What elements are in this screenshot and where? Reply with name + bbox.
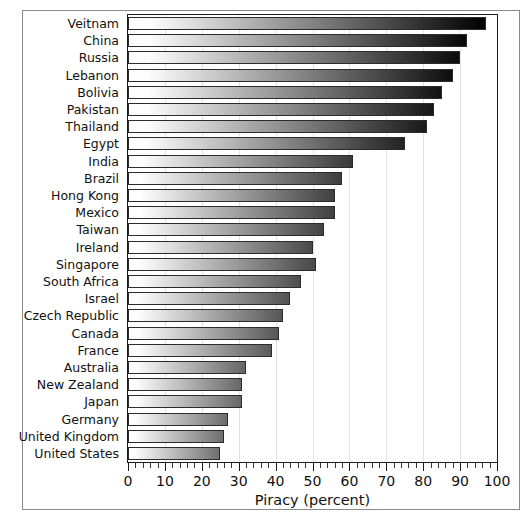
- x-tick-minor: [431, 463, 432, 468]
- category-label-taiwan: Taiwan: [76, 223, 119, 236]
- bar-row: [128, 378, 497, 391]
- x-tick-minor: [475, 463, 476, 468]
- bar-row: [128, 292, 497, 305]
- bar: [128, 155, 353, 168]
- bar-row: [128, 223, 497, 236]
- bar-row: [128, 275, 497, 288]
- x-tick-minor: [180, 463, 181, 468]
- category-label-thailand: Thailand: [65, 120, 119, 133]
- category-label-china: China: [83, 34, 119, 47]
- bar: [128, 395, 242, 408]
- x-tick-major: [460, 463, 461, 471]
- category-label-lebanon: Lebanon: [65, 69, 119, 82]
- x-tick-minor: [158, 463, 159, 468]
- x-tick-minor: [364, 463, 365, 468]
- x-tick-minor: [231, 463, 232, 468]
- x-tick-minor: [327, 463, 328, 468]
- x-tick-minor: [290, 463, 291, 468]
- x-tick-minor: [217, 463, 218, 468]
- x-tick-minor: [143, 463, 144, 468]
- category-label-mexico: Mexico: [75, 206, 119, 219]
- x-tick-minor: [209, 463, 210, 468]
- bar-row: [128, 103, 497, 116]
- category-label-united-states: United States: [34, 447, 119, 460]
- x-tick-minor: [187, 463, 188, 468]
- x-tick-label-80: 80: [414, 472, 432, 490]
- category-label-france: France: [77, 344, 119, 357]
- bar: [128, 241, 313, 254]
- x-tick-label-100: 100: [484, 472, 511, 490]
- piracy-bar-chart-figure: VeitnamChinaRussiaLebanonBoliviaPakistan…: [0, 0, 529, 526]
- x-tick-label-50: 50: [304, 472, 322, 490]
- bar: [128, 344, 272, 357]
- x-axis-tick-labels: 0102030405060708090100: [127, 472, 498, 492]
- x-tick-label-10: 10: [156, 472, 174, 490]
- bar-row: [128, 413, 497, 426]
- x-tick-minor: [135, 463, 136, 468]
- category-label-veitnam: Veitnam: [68, 17, 119, 30]
- bar-row: [128, 309, 497, 322]
- x-tick-major: [423, 463, 424, 471]
- bar: [128, 309, 283, 322]
- x-tick-minor: [335, 463, 336, 468]
- bar: [128, 258, 316, 271]
- x-tick-minor: [305, 463, 306, 468]
- bar: [128, 430, 224, 443]
- bar-row: [128, 206, 497, 219]
- bar-row: [128, 137, 497, 150]
- bar-row: [128, 155, 497, 168]
- bar: [128, 103, 434, 116]
- bar: [128, 86, 442, 99]
- bar: [128, 275, 301, 288]
- bar: [128, 120, 427, 133]
- bar: [128, 34, 467, 47]
- bar: [128, 223, 324, 236]
- bar: [128, 172, 342, 185]
- bar-row: [128, 17, 497, 30]
- category-label-pakistan: Pakistan: [67, 103, 119, 116]
- bar-row: [128, 241, 497, 254]
- x-tick-label-90: 90: [451, 472, 469, 490]
- bar-row: [128, 172, 497, 185]
- x-tick-major: [202, 463, 203, 471]
- category-label-singapore: Singapore: [56, 258, 119, 271]
- bar-row: [128, 120, 497, 133]
- bar-row: [128, 430, 497, 443]
- bar: [128, 17, 486, 30]
- bar: [128, 327, 279, 340]
- x-tick-minor: [150, 463, 151, 468]
- category-label-united-kingdom: United Kingdom: [19, 430, 119, 443]
- x-tick-minor: [438, 463, 439, 468]
- category-label-brazil: Brazil: [84, 172, 119, 185]
- bar: [128, 361, 246, 374]
- x-tick-minor: [320, 463, 321, 468]
- x-tick-major: [497, 463, 498, 471]
- x-tick-major: [313, 463, 314, 471]
- x-tick-minor: [246, 463, 247, 468]
- category-axis-labels: VeitnamChinaRussiaLebanonBoliviaPakistan…: [0, 14, 123, 463]
- bar-row: [128, 189, 497, 202]
- category-label-new-zealand: New Zealand: [37, 378, 119, 391]
- x-tick-minor: [261, 463, 262, 468]
- x-tick-minor: [482, 463, 483, 468]
- bar-row: [128, 34, 497, 47]
- x-tick-minor: [445, 463, 446, 468]
- bar: [128, 413, 228, 426]
- x-tick-minor: [453, 463, 454, 468]
- x-tick-major: [239, 463, 240, 471]
- x-tick-minor: [394, 463, 395, 468]
- x-tick-label-0: 0: [124, 472, 133, 490]
- x-tick-minor: [342, 463, 343, 468]
- x-axis-title: Piracy (percent): [127, 492, 498, 508]
- plot-box: [127, 14, 498, 463]
- x-tick-minor: [224, 463, 225, 468]
- bar: [128, 378, 242, 391]
- x-tick-minor: [467, 463, 468, 468]
- bar-row: [128, 69, 497, 82]
- x-tick-minor: [172, 463, 173, 468]
- category-label-australia: Australia: [64, 361, 119, 374]
- bar-row: [128, 447, 497, 460]
- x-tick-label-30: 30: [230, 472, 248, 490]
- x-tick-minor: [253, 463, 254, 468]
- plot-area: [128, 15, 497, 462]
